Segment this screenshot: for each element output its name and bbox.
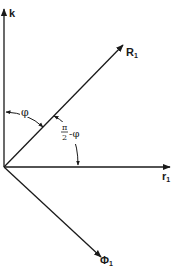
- r1-axis-label: r1: [162, 170, 170, 183]
- R1-vector-label: R1: [126, 46, 138, 59]
- svg-text:-φ: -φ: [69, 128, 79, 139]
- phi-angle-label: φ: [20, 105, 31, 119]
- vector-diagram: k R1 r1 Φ1 φ π 2 -φ: [0, 0, 175, 271]
- svg-text:k: k: [9, 7, 16, 19]
- k-axis-label: k: [9, 7, 16, 19]
- svg-text:φ: φ: [21, 106, 29, 119]
- svg-text:2: 2: [62, 133, 67, 142]
- Phi1-vector-arrow: [4, 167, 101, 257]
- svg-text:π: π: [62, 123, 67, 132]
- svg-text:Φ1: Φ1: [100, 254, 113, 267]
- svg-text:r1: r1: [162, 170, 170, 183]
- svg-text:R1: R1: [126, 46, 138, 59]
- pi-half-minus-phi-angle-label: π 2 -φ: [61, 122, 83, 144]
- Phi1-vector-label: Φ1: [100, 254, 113, 267]
